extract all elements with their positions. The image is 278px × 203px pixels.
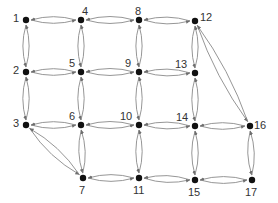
edge-13-to-14 — [192, 78, 195, 121]
edge-16-to-12 — [197, 25, 247, 121]
edge-9-to-10 — [136, 77, 139, 120]
edge-6-to-3 — [31, 122, 76, 125]
edge-17-to-16 — [250, 131, 254, 175]
node-label-9: 9 — [125, 58, 131, 69]
edge-9-to-5 — [86, 69, 134, 72]
node-label-7: 7 — [79, 185, 85, 196]
edge-14-to-16 — [200, 126, 245, 129]
edge-10-to-6 — [86, 122, 134, 125]
node-2 — [23, 69, 29, 75]
edge-1-to-4 — [31, 20, 76, 23]
node-label-1: 1 — [13, 13, 19, 24]
edge-9-to-13 — [144, 72, 190, 76]
edge-7-to-3 — [30, 128, 80, 174]
node-1 — [23, 17, 29, 23]
edge-layer — [23, 17, 254, 184]
edge-15-to-14 — [195, 131, 198, 175]
node-label-13: 13 — [175, 59, 187, 70]
edge-2-to-3 — [23, 77, 26, 120]
node-13 — [192, 70, 198, 76]
node-label-12: 12 — [200, 12, 212, 23]
node-14 — [192, 123, 198, 129]
node-label-10: 10 — [120, 111, 132, 122]
edge-7-to-11 — [88, 178, 134, 181]
edge-10-to-14 — [144, 125, 190, 129]
edge-16-to-14 — [200, 123, 245, 126]
node-8 — [136, 17, 142, 23]
node-12 — [192, 18, 198, 24]
node-label-8: 8 — [135, 6, 141, 17]
node-3 — [23, 122, 29, 128]
edge-5-to-6 — [78, 77, 81, 120]
edge-5-to-4 — [81, 25, 84, 67]
edge-5-to-2 — [31, 69, 76, 72]
edge-15-to-17 — [200, 180, 247, 183]
edge-17-to-15 — [200, 177, 247, 180]
edge-4-to-8 — [86, 20, 134, 23]
edge-8-to-4 — [86, 17, 134, 20]
edge-6-to-10 — [86, 125, 134, 128]
node-17 — [249, 177, 255, 183]
node-label-2: 2 — [13, 65, 19, 76]
edge-4-to-1 — [31, 17, 76, 20]
node-11 — [136, 175, 142, 181]
edge-12-to-8 — [144, 17, 190, 21]
edge-5-to-9 — [86, 72, 134, 75]
node-label-6: 6 — [69, 111, 75, 122]
node-label-15: 15 — [188, 187, 200, 198]
edge-14-to-13 — [195, 78, 198, 121]
edge-10-to-9 — [139, 77, 142, 120]
edge-7-to-6 — [81, 130, 85, 173]
node-label-3: 3 — [13, 118, 19, 129]
node-label-5: 5 — [69, 58, 75, 69]
node-label-17: 17 — [245, 187, 257, 198]
edge-11-to-10 — [139, 130, 142, 173]
edge-8-to-12 — [144, 20, 190, 24]
edge-12-to-13 — [192, 26, 195, 68]
edge-4-to-5 — [78, 25, 81, 67]
edge-2-to-1 — [26, 25, 29, 67]
edge-11-to-7 — [88, 175, 134, 178]
edge-3-to-6 — [31, 125, 76, 128]
edge-15-to-11 — [144, 176, 190, 180]
edge-16-to-17 — [248, 131, 252, 175]
edge-1-to-2 — [23, 25, 26, 67]
edge-10-to-11 — [136, 130, 139, 173]
node-layer — [23, 17, 255, 183]
node-5 — [78, 69, 84, 75]
node-label-4: 4 — [82, 6, 88, 17]
node-9 — [136, 69, 142, 75]
node-label-11: 11 — [133, 185, 144, 196]
node-10 — [136, 122, 142, 128]
node-16 — [247, 123, 253, 129]
node-7 — [80, 175, 86, 181]
edge-6-to-5 — [81, 77, 84, 120]
edge-6-to-7 — [79, 130, 83, 173]
edge-9-to-8 — [139, 25, 142, 67]
edge-3-to-7 — [30, 128, 80, 174]
edge-8-to-9 — [136, 25, 139, 67]
node-label-14: 14 — [176, 112, 188, 123]
edge-12-to-16 — [197, 25, 247, 121]
graph-diagram — [0, 0, 278, 203]
edge-14-to-15 — [192, 131, 195, 175]
edge-13-to-12 — [195, 26, 198, 68]
node-4 — [78, 17, 84, 23]
edge-3-to-2 — [26, 77, 29, 120]
edge-2-to-5 — [31, 72, 76, 75]
node-label-16: 16 — [254, 120, 266, 131]
node-6 — [78, 122, 84, 128]
node-15 — [192, 177, 198, 183]
edge-11-to-15 — [144, 178, 190, 182]
